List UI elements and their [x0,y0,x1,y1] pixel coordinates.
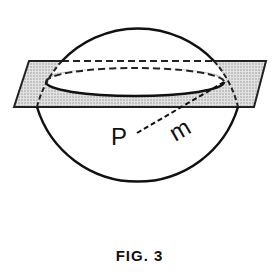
figure-caption: FIG. 3 [0,247,279,264]
sphere-outline-lower [37,107,238,182]
radius-label-m: m [164,113,195,146]
point-label-p: P [111,123,127,150]
sphere-plane-diagram: P m [0,0,279,277]
